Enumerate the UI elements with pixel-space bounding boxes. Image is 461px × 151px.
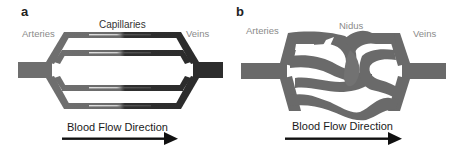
panel-letter-b: b: [236, 4, 244, 19]
panel-a: a Arteries Capillaries Veins: [18, 4, 223, 145]
flow-label-a: Blood Flow Direction: [67, 121, 168, 133]
veins-label-a: Veins: [186, 28, 209, 39]
blood-flow-diagram: a Arteries Capillaries Veins: [0, 0, 461, 151]
vein-outflow: [193, 62, 223, 78]
arrowhead-icon: [164, 132, 178, 145]
arrowhead-icon: [388, 132, 402, 145]
arteries-label-a: Arteries: [22, 28, 55, 39]
vein-outflow-b: [402, 63, 446, 79]
normal-vessel-network: [18, 32, 223, 109]
arteries-label-b: Arteries: [246, 25, 279, 36]
artery-inflow-b: [241, 63, 287, 79]
capillaries-label: Capillaries: [99, 19, 146, 30]
avm-nidus-network: [241, 31, 446, 121]
artery-inflow: [18, 62, 52, 78]
veins-label-b: Veins: [413, 28, 436, 39]
panel-b: b Arteries Nidus Veins: [236, 4, 446, 145]
nidus-label: Nidus: [339, 20, 364, 31]
flow-label-b: Blood Flow Direction: [292, 120, 393, 132]
flow-arrow-b: [285, 132, 402, 145]
panel-letter-a: a: [21, 4, 29, 19]
flow-arrow-a: [62, 132, 178, 145]
